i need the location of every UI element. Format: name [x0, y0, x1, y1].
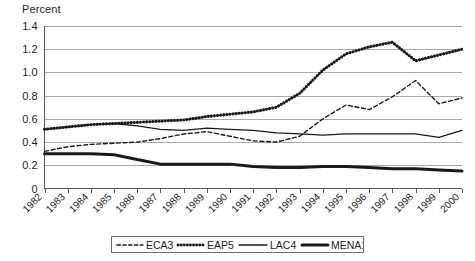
x-tick-label: 1994 — [299, 191, 323, 215]
chart-figure: Percent 00.20.40.60.81.01.21.4 198219831… — [0, 0, 475, 261]
legend-label-mena11: MENA11 — [331, 239, 363, 251]
y-tick-label: 0.6 — [22, 113, 37, 125]
series-line-eca3 — [45, 81, 463, 152]
y-tick-label: 0.8 — [22, 90, 37, 102]
x-tick-label: 1988 — [160, 191, 184, 215]
legend-label-eca3: ECA3 — [146, 239, 174, 251]
legend-content: ECA3EAP5LAC4MENA11 — [112, 237, 363, 252]
x-tick-label: 1998 — [392, 191, 416, 215]
y-tick-label: 0.2 — [22, 159, 37, 171]
x-axis-tick-labels: 1982198319841985198619871988198919901991… — [20, 191, 461, 215]
x-tick-label: 1984 — [67, 191, 91, 215]
x-tick-label: 1999 — [415, 191, 439, 215]
data-series-group — [45, 42, 463, 171]
x-tick-label: 1995 — [322, 191, 346, 215]
legend-label-eap5: EAP5 — [207, 239, 234, 251]
x-axis-tickmarks — [46, 189, 463, 193]
series-line-lac4 — [45, 124, 463, 138]
x-tick-label: 1983 — [44, 191, 68, 215]
y-tick-label: 0.4 — [22, 136, 37, 148]
series-line-eap5 — [45, 42, 463, 129]
plot-area: 00.20.40.60.81.01.21.4 19821983198419851… — [0, 0, 475, 261]
x-tick-label: 1989 — [183, 191, 207, 215]
y-tick-label: 1.2 — [22, 43, 37, 55]
y-tick-label: 1.4 — [22, 20, 37, 32]
chart-svg: 00.20.40.60.81.01.21.4 19821983198419851… — [0, 0, 475, 261]
x-tick-label: 1987 — [136, 191, 160, 215]
x-tick-label: 1985 — [90, 191, 114, 215]
legend-label-lac4: LAC4 — [270, 239, 296, 251]
x-tick-label: 1996 — [345, 191, 369, 215]
x-tick-label: 1982 — [20, 191, 44, 215]
x-tick-label: 1993 — [276, 191, 300, 215]
x-tick-label: 2000 — [438, 191, 462, 215]
y-axis-tick-labels: 00.20.40.60.81.01.21.4 — [22, 20, 37, 195]
series-line-mena11 — [45, 154, 463, 171]
y-tick-label: 1.0 — [22, 66, 37, 78]
x-tick-label: 1997 — [368, 191, 392, 215]
x-tick-label: 1986 — [113, 191, 137, 215]
x-tick-label: 1990 — [206, 191, 230, 215]
x-tick-label: 1991 — [229, 191, 253, 215]
chart-legend: ECA3EAP5LAC4MENA11 — [111, 236, 364, 253]
x-tick-label: 1992 — [252, 191, 276, 215]
